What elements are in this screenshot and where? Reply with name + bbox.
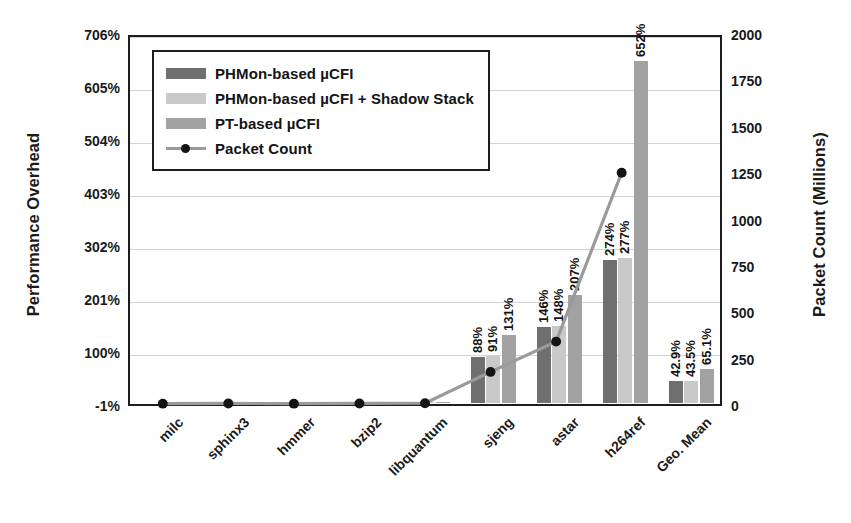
- y-axis-right-title: Packet Count (Millions): [810, 95, 829, 355]
- legend-swatch-icon: [166, 118, 206, 129]
- legend-label: PT-based µCFI: [215, 115, 320, 132]
- bar-value-label: 65.1%: [700, 328, 713, 365]
- y-axis-left-title: Performance Overhead: [24, 95, 43, 355]
- legend-swatch-icon: [166, 93, 206, 104]
- bar-value-label: 42.9%: [669, 340, 682, 377]
- bar-group: 146%148%207%: [526, 37, 592, 404]
- bar: [502, 335, 516, 404]
- bar: [222, 402, 236, 404]
- y-tick-left: 403%: [84, 187, 120, 201]
- bar-value-label: 148%: [552, 289, 565, 322]
- x-axis-category-labels: milcsphinx3hmmerbzip2libquantumsjengasta…: [128, 406, 722, 523]
- y-axis-left-ticks: -1%100%201%302%403%504%605%706%: [58, 0, 120, 523]
- y-tick-left: 302%: [84, 240, 120, 254]
- bar: [238, 402, 252, 404]
- legend-label: PHMon-based µCFI: [215, 65, 354, 82]
- y-tick-left: 706%: [84, 28, 120, 42]
- legend-line-marker-icon: [166, 143, 206, 154]
- legend-item: PHMon-based µCFI + Shadow Stack: [166, 86, 474, 111]
- y-tick-right: 1250: [731, 167, 762, 181]
- y-tick-right: 2000: [731, 28, 762, 42]
- bar: [420, 402, 434, 404]
- y-tick-right: 1500: [731, 121, 762, 135]
- bar: [370, 402, 384, 404]
- bar-group: 42.9%43.5%65.1%: [658, 37, 724, 404]
- y-tick-right: 0: [731, 399, 739, 413]
- bar-value-label: 652%: [634, 24, 647, 57]
- y-tick-right: 1750: [731, 74, 762, 88]
- bar-value-label: 43.5%: [684, 340, 697, 377]
- bar-value-label: 88%: [471, 327, 484, 353]
- y-tick-right: 250: [731, 353, 754, 367]
- bar-value-label: 207%: [568, 258, 581, 291]
- chart-figure: Performance Overhead Packet Count (Milli…: [0, 0, 851, 523]
- bar: [552, 326, 566, 404]
- bar-value-label: 131%: [502, 297, 515, 330]
- bar: [634, 61, 648, 403]
- bar: [486, 356, 500, 404]
- legend-label: Packet Count: [215, 140, 312, 157]
- y-tick-right: 1000: [731, 214, 762, 228]
- bar: [700, 369, 714, 403]
- y-tick-right: 500: [731, 306, 754, 320]
- bar: [669, 381, 683, 404]
- bar: [436, 402, 450, 404]
- bar-group: 274%277%652%: [592, 37, 658, 404]
- legend-item: PT-based µCFI: [166, 111, 474, 136]
- y-tick-left: 100%: [84, 346, 120, 360]
- bar: [684, 381, 698, 404]
- bar: [568, 295, 582, 404]
- bar-value-label: 91%: [486, 326, 499, 352]
- bar-value-label: 274%: [603, 222, 616, 255]
- y-tick-left: -1%: [95, 399, 120, 413]
- y-axis-right-ticks: 025050075010001250150017502000: [731, 0, 791, 523]
- bar: [471, 357, 485, 403]
- bar: [618, 258, 632, 403]
- y-tick-left: 201%: [84, 293, 120, 307]
- y-tick-left: 504%: [84, 134, 120, 148]
- chart-legend: PHMon-based µCFIPHMon-based µCFI + Shado…: [152, 50, 490, 171]
- bar-value-label: 146%: [537, 290, 550, 323]
- bar: [603, 260, 617, 404]
- legend-item: Packet Count: [166, 136, 474, 161]
- bar: [537, 327, 551, 404]
- legend-label: PHMon-based µCFI + Shadow Stack: [215, 90, 474, 107]
- legend-item: PHMon-based µCFI: [166, 61, 474, 86]
- legend-swatch-icon: [166, 68, 206, 79]
- bar: [354, 402, 368, 404]
- y-tick-right: 750: [731, 260, 754, 274]
- y-tick-left: 605%: [84, 81, 120, 95]
- bar-value-label: 277%: [618, 221, 631, 254]
